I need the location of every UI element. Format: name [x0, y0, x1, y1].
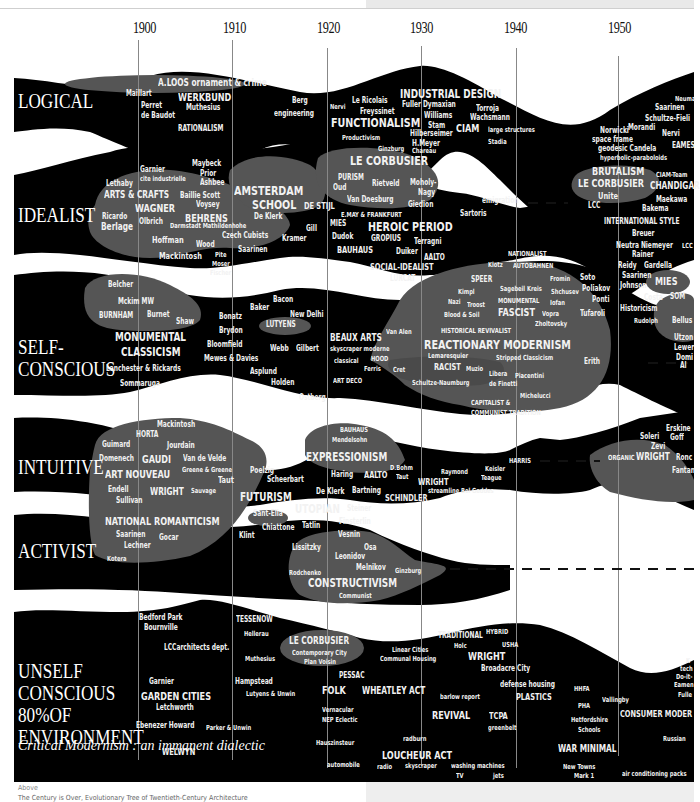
- label-unite: Unite: [598, 192, 618, 201]
- label-letchworth: Letchworth: [156, 704, 194, 712]
- label-plastics: PLASTICS: [516, 693, 552, 702]
- label-eamen: Eamen: [674, 682, 694, 689]
- label-bloomfield: Bloomfield: [207, 341, 242, 349]
- label-mckim: Mckim MW: [118, 298, 154, 306]
- label-lutyens-unwin: Lutyens & Unwin: [246, 691, 295, 698]
- category-intuitive: INTUITIVE: [18, 456, 104, 477]
- label-large-structures: large structures: [488, 127, 535, 134]
- category-idealist: IDEALIST: [18, 204, 95, 225]
- label-domenech: Domenech: [99, 455, 134, 463]
- label-le-corbusier-idealist: LE CORBUSIER: [350, 154, 428, 168]
- emigration-dash: [528, 202, 568, 204]
- label-mackintosh-intuitive: Mackintosh: [157, 421, 195, 429]
- label-erith: Erith: [584, 358, 600, 366]
- label-industrial-design: INDUSTRIAL DESIGN: [400, 88, 501, 101]
- label-klint: Klint: [239, 532, 255, 540]
- label-communist-tradition: COMMUNIST TRADITION: [471, 410, 541, 417]
- label-hood: HOOD: [371, 356, 388, 363]
- label-garnier-unself: Garnier: [149, 678, 174, 686]
- label-kimpl: Kimpl: [458, 289, 475, 296]
- label-historicism: Historicism: [620, 305, 657, 313]
- label-berlage: Berlage: [101, 222, 133, 233]
- label-berg: Berg: [292, 97, 308, 105]
- label-ferris: Ferris: [364, 366, 381, 373]
- label-organic: ORGANIC: [608, 455, 635, 462]
- label-zholtovsky: Zholtovsky: [535, 321, 567, 328]
- label-tv: TV: [456, 773, 464, 780]
- label-emigration: emigration: [482, 197, 518, 205]
- harris-dash: [540, 460, 600, 462]
- label-belcher: Belcher: [108, 281, 133, 289]
- label-breuer: Breuer: [632, 230, 655, 238]
- label-osa: Osa: [364, 544, 377, 552]
- label-wright-intuitive: WRIGHT: [150, 487, 184, 498]
- label-taut: Taut: [218, 476, 234, 485]
- label-skyscraper-unself: skyscraper: [405, 763, 437, 770]
- label-nazi: Nazi: [448, 299, 461, 306]
- label-streamline: streamline Bel Geddes: [428, 488, 494, 495]
- label-steiner: Steiner: [347, 505, 371, 513]
- label-scheerbart: Scheerbart: [267, 476, 304, 484]
- label-engineering: engineering: [274, 110, 314, 118]
- label-usha: USHA: [502, 642, 518, 649]
- category-self-conscious-2: CONSCIOUS: [18, 358, 115, 379]
- label-sauvage: Sauvage: [191, 488, 216, 495]
- label-perret: Perret: [141, 102, 162, 110]
- category-activist: ACTIVIST: [18, 540, 96, 561]
- label-czech: Czech Cubists: [222, 232, 268, 240]
- label-futurism: FUTURISM: [240, 491, 292, 504]
- label-beauxarts: BEAUX ARTS: [330, 333, 382, 344]
- label-new-towns: New Towns: [563, 764, 595, 771]
- label-jourdain: Jourdain: [167, 442, 195, 450]
- label-vandevelde: Van de Velde: [183, 455, 226, 463]
- label-finsterlin: Finsterlin: [339, 518, 371, 526]
- label-raymond: Raymond: [441, 469, 468, 476]
- label-reidy: Reidy: [618, 262, 637, 270]
- label-constructivism: CONSTRUCTIVISM: [308, 577, 397, 590]
- label-taut-2: Taut: [396, 474, 408, 481]
- label-geodesic: geodesic Candela: [598, 145, 656, 153]
- label-kramer: Kramer: [282, 235, 307, 243]
- label-soto: Soto: [580, 274, 595, 282]
- label-burnet: Burnet: [147, 311, 170, 319]
- label-sartoris: Sartoris: [460, 210, 486, 218]
- label-loucheur-act: LOUCHEUR ACT: [382, 750, 452, 762]
- label-greenbelt: greenbelt: [488, 725, 516, 732]
- label-nep-eclectic: NEP Eclectic: [322, 717, 358, 724]
- label-baker: Baker: [250, 304, 269, 312]
- label-brydon: Brydon: [219, 327, 243, 335]
- label-monumental-2: MONUMENTAL: [498, 298, 539, 305]
- label-russian: Russian: [663, 736, 686, 743]
- label-eames: EAMES: [672, 142, 695, 150]
- label-hampstead: Hampstead: [235, 678, 273, 686]
- label-asplund: Asplund: [250, 368, 277, 376]
- label-rationalism: RATIONALISM: [178, 125, 223, 133]
- year-1950: 1950: [608, 18, 631, 38]
- label-washing-machines: washing machines: [451, 763, 505, 770]
- label-folk: FOLK: [322, 685, 346, 697]
- label-le-corbusier-unself: LE CORBUSIER: [289, 636, 349, 647]
- label-wheatley-act: WHEATLEY ACT: [362, 686, 425, 697]
- label-webb: Webb: [270, 345, 289, 353]
- label-shaw: Shaw: [176, 318, 194, 326]
- label-lewer: Lewer: [674, 344, 694, 352]
- label-lcc-1: LCC: [588, 202, 600, 210]
- label-saarinen-2: Saarinen: [622, 272, 652, 280]
- label-williams: Williams: [424, 112, 452, 120]
- label-air-conditioning: air conditioning packs: [622, 771, 687, 778]
- label-guimard: Guimard: [102, 441, 130, 449]
- label-lemaresquier: Lemaresquier: [428, 353, 468, 360]
- label-oud: Oud: [333, 184, 346, 192]
- label-klotz: Klotz: [488, 262, 503, 269]
- label-saarinen-idealist: Saarinen: [238, 246, 268, 254]
- label-rietveld: Rietveld: [372, 180, 399, 188]
- label-nervi-2: Nervi: [662, 130, 680, 138]
- label-jets: jets: [493, 773, 504, 780]
- label-harris: HARRIS: [509, 458, 531, 465]
- label-bloodsoil: Blood & Soil: [444, 312, 479, 319]
- label-hyperbolic: hyperbolic-paraboloids: [600, 155, 667, 162]
- label-consumer-moder: CONSUMER MODER: [620, 710, 692, 719]
- label-parker-unwin: Parker & Unwin: [206, 725, 251, 732]
- label-saarinen-logical: Saarinen: [655, 104, 685, 112]
- label-sommaruga: Sommaruga: [120, 380, 160, 388]
